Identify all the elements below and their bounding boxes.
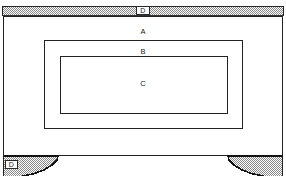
right-bracket-foot: [226, 155, 286, 176]
label-a: A: [133, 28, 153, 36]
technical-drawing-figure: A B C D D: [0, 0, 286, 176]
label-d-top-board: D: [136, 6, 150, 15]
label-b: B: [133, 48, 153, 56]
label-c: C: [133, 80, 153, 88]
label-d-bracket-foot: D: [5, 160, 18, 169]
